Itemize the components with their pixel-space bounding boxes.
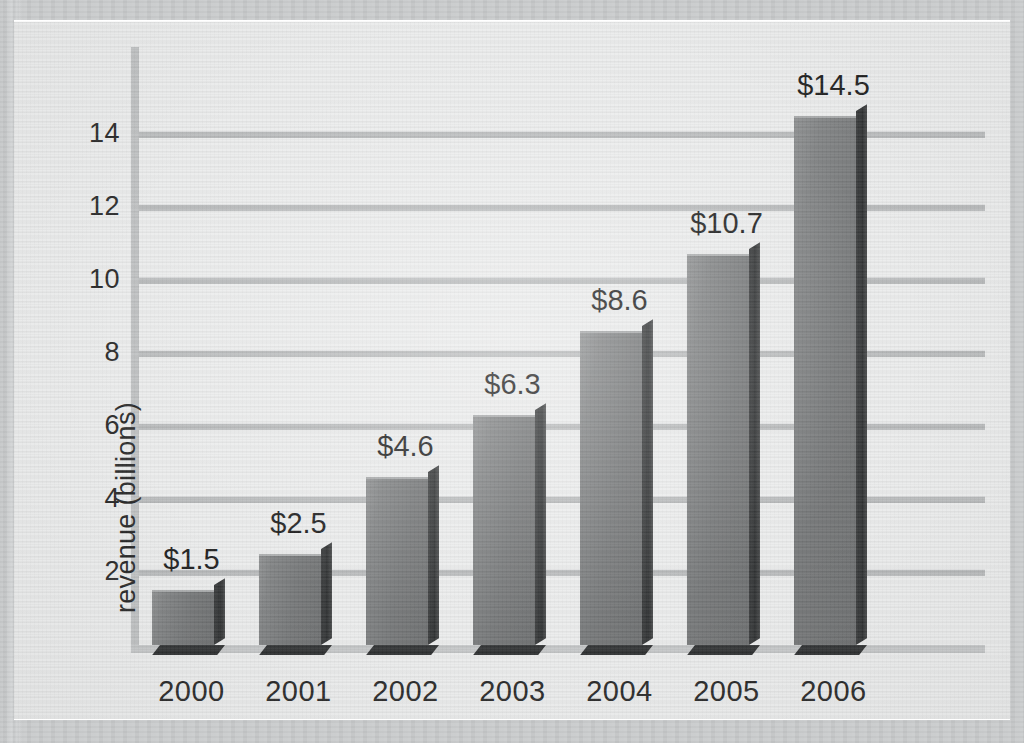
bar-slot[interactable]: $6.3 [459, 85, 566, 645]
bar[interactable] [687, 254, 749, 645]
bar-slot[interactable]: $1.5 [138, 85, 245, 645]
bar[interactable] [152, 590, 214, 645]
bar-value-label: $6.3 [459, 370, 566, 399]
bar-slot[interactable]: $2.5 [245, 85, 352, 645]
bar[interactable] [794, 116, 856, 645]
bar-value-label: $2.5 [245, 509, 352, 538]
x-axis-tick-label: 2003 [459, 677, 566, 706]
x-axis-tick-label: 2004 [566, 677, 673, 706]
bar[interactable] [259, 554, 321, 645]
x-axis-tick-label: 2002 [352, 677, 459, 706]
bar-value-label: $10.7 [673, 209, 780, 238]
bar-value-label: $8.6 [566, 286, 673, 315]
bar[interactable] [366, 477, 428, 645]
y-axis-tick-label: 14 [60, 120, 120, 147]
chart-card: 2468101214 revenue (billions) $1.5$2.5$4… [14, 22, 1010, 719]
bar-slot[interactable]: $8.6 [566, 85, 673, 645]
bar-slot[interactable]: $4.6 [352, 85, 459, 645]
bar-value-label: $1.5 [138, 545, 245, 574]
bar-chart: 2468101214 revenue (billions) $1.5$2.5$4… [14, 22, 1010, 719]
bar[interactable] [580, 331, 642, 645]
bar-value-label: $14.5 [780, 71, 887, 100]
bar-slot[interactable]: $10.7 [673, 85, 780, 645]
x-axis-tick-label: 2006 [780, 677, 887, 706]
y-axis-title: revenue (billions) [111, 308, 142, 708]
bar-slot[interactable]: $14.5 [780, 85, 887, 645]
scanned-page: 2468101214 revenue (billions) $1.5$2.5$4… [0, 0, 1024, 743]
bar[interactable] [473, 415, 535, 645]
x-axis-ticks: 2000200120022003200420052006 [138, 677, 985, 719]
x-axis-tick-label: 2000 [138, 677, 245, 706]
x-axis-tick-label: 2005 [673, 677, 780, 706]
y-axis-title-wrap: revenue (billions) [76, 192, 116, 512]
bar-series: $1.5$2.5$4.6$6.3$8.6$10.7$14.5 [138, 22, 985, 719]
bar-value-label: $4.6 [352, 432, 459, 461]
x-axis-tick-label: 2001 [245, 677, 352, 706]
